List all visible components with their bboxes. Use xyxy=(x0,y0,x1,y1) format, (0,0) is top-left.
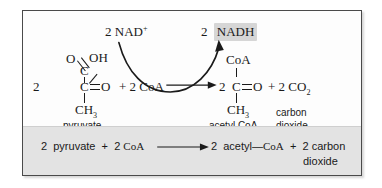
summary-co2-coefficient: 2 xyxy=(302,140,308,152)
summary-left-reactant: pyruvate xyxy=(53,140,95,152)
nadh-highlight-box: NADH xyxy=(214,23,258,41)
summary-co2-line2: dioxide xyxy=(303,156,338,167)
coa-coefficient: 2 xyxy=(130,79,137,94)
keto-oxygen: O xyxy=(101,80,110,93)
summary-right: 2 acetyl—CoA + 2 carbon xyxy=(211,141,345,152)
summary-plus-1: + xyxy=(102,140,108,152)
summary-left-coefficient: 2 xyxy=(41,140,47,152)
summary-right-product: acetyl xyxy=(223,140,252,152)
summary-co2-line1: carbon xyxy=(312,140,346,152)
co2-coefficient: 2 xyxy=(279,79,286,94)
nad-charge: + xyxy=(143,24,148,33)
coa-label: CoA xyxy=(139,79,164,94)
summary-dash: — xyxy=(252,140,263,152)
acetyl-keto-double-bond xyxy=(242,84,252,90)
co2-formula: CO2 xyxy=(288,79,310,94)
acetyl-methyl: CH3 xyxy=(227,103,249,116)
product-plus: + xyxy=(268,79,275,94)
keto-double-bond xyxy=(90,84,100,90)
co2-name-line1: carbon xyxy=(276,108,307,118)
pyruvate-methyl: CH3 xyxy=(75,103,97,116)
nadh-group: 2 NADH xyxy=(201,25,257,38)
acetyl-coa-coefficient: 2 xyxy=(219,80,226,93)
figure-frame: 2 NAD+ 2 NADH 2 O OH C C xyxy=(22,10,362,176)
acetyl-keto-carbon: C xyxy=(232,80,241,93)
nad-coefficient: 2 xyxy=(105,24,112,39)
summary-right-product-coa: CoA xyxy=(263,140,284,152)
nad-plus-label: 2 NAD+ xyxy=(105,25,147,38)
diagram-canvas: 2 NAD+ 2 NADH 2 O OH C C xyxy=(0,0,382,188)
carboxyl-carbon: C xyxy=(80,64,89,77)
nad-label: NAD xyxy=(115,24,143,39)
nadh-coefficient: 2 xyxy=(201,24,208,39)
carboxyl-single-bond xyxy=(89,74,97,84)
carboxyl-hydroxyl: OH xyxy=(89,51,108,64)
keto-carbon: C xyxy=(80,80,89,93)
summary-coa-label: CoA xyxy=(123,140,144,152)
summary-coa-coefficient: 2 xyxy=(114,140,120,152)
carboxyl-oxygen: O xyxy=(66,52,75,65)
summary-left: 2 pyruvate + 2 CoA xyxy=(41,141,144,152)
summary-plus-2: + xyxy=(290,140,296,152)
acetyl-bond-coa-c xyxy=(236,68,237,77)
coa-reactant-group: + 2 CoA xyxy=(119,80,164,93)
acetyl-coa-thioester-label: CoA xyxy=(226,53,251,66)
acetyl-keto-oxygen: O xyxy=(253,80,262,93)
pyruvate-coefficient: 2 xyxy=(33,80,40,93)
reactant-plus: + xyxy=(119,79,126,94)
summary-right-coefficient: 2 xyxy=(211,140,217,152)
nadh-label: NADH xyxy=(217,24,255,39)
co2-product-group: + 2 CO2 xyxy=(268,80,310,93)
summary-band: 2 pyruvate + 2 CoA 2 acetyl—CoA + 2 carb… xyxy=(23,126,361,175)
